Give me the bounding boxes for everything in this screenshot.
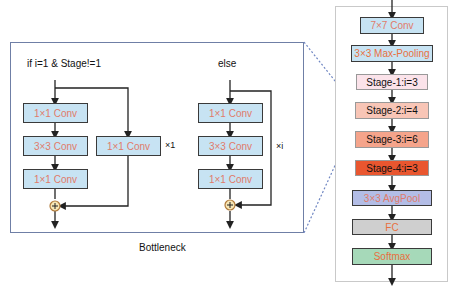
layer-stage-2: Stage-2:i=4 <box>355 102 429 119</box>
layer-fc: FC <box>352 219 432 235</box>
layer-maxpool: 3×3 Max-Pooling <box>351 45 433 62</box>
layer-7x7-conv: 7×7 Conv <box>360 17 424 34</box>
layer-avgpool: 3×3 AvgPool <box>352 190 432 206</box>
layer-softmax: Softmax <box>352 248 432 265</box>
layer-stage-3: Stage-3:i=6 <box>355 131 429 148</box>
layer-stage-4: Stage-4:i=3 <box>355 160 429 176</box>
layer-stage-1: Stage-1:i=3 <box>356 74 428 90</box>
